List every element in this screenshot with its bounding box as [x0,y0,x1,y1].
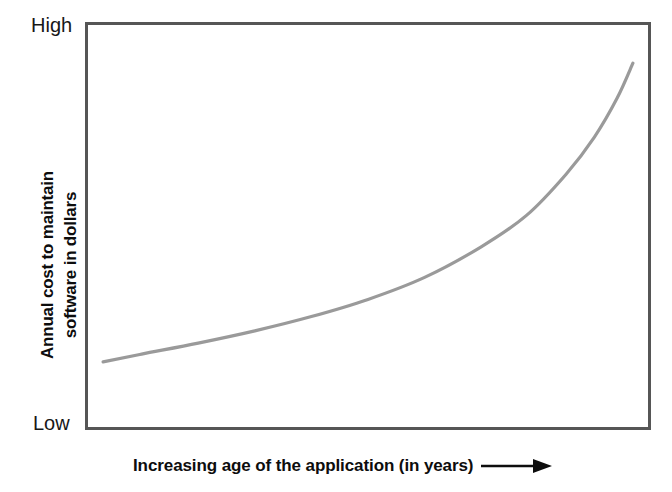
y-axis-title: Annual cost to maintain software in doll… [36,110,82,420]
right-arrow-icon [481,457,553,475]
x-axis-title-group: Increasing age of the application (in ye… [133,455,553,477]
plot-area-frame [85,22,651,430]
y-axis-high-label: High [31,15,72,35]
y-axis-title-line1: Annual cost to maintain [36,110,59,420]
x-axis-title: Increasing age of the application (in ye… [133,455,473,477]
chart-figure: High Low Annual cost to maintain softwar… [0,0,672,492]
y-axis-title-line2: software in dollars [59,110,82,420]
